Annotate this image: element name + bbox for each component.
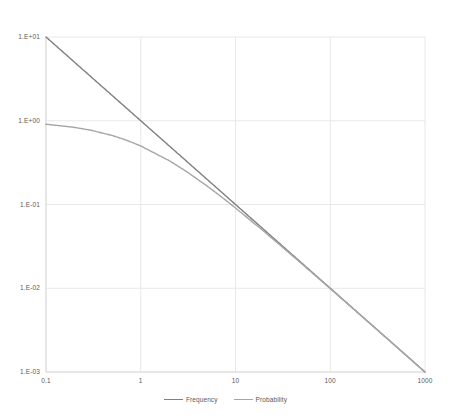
y-tick-label: 1.E-01 — [6, 201, 40, 208]
legend-line-icon — [164, 399, 183, 400]
x-tick-label: 100 — [310, 377, 350, 384]
x-tick-label: 0.1 — [26, 377, 66, 384]
legend-item-frequency[interactable]: Frequency — [164, 396, 218, 403]
chart-plot-area — [0, 0, 451, 420]
chart-container: 1.E+011.E+001.E-011.E-021.E-03 0.1110100… — [0, 0, 451, 420]
y-tick-label: 1.E-03 — [6, 368, 40, 375]
y-tick-label: 1.E-02 — [6, 284, 40, 291]
legend-line-icon — [234, 399, 253, 400]
y-tick-label: 1.E+01 — [6, 33, 40, 40]
x-tick-label: 10 — [216, 377, 256, 384]
legend-label: Probability — [256, 396, 287, 403]
chart-legend: FrequencyProbability — [0, 396, 451, 403]
y-tick-label: 1.E+00 — [6, 117, 40, 124]
x-tick-label: 1 — [121, 377, 161, 384]
legend-item-probability[interactable]: Probability — [234, 396, 287, 403]
x-tick-label: 1000 — [405, 377, 445, 384]
legend-label: Frequency — [186, 396, 218, 403]
